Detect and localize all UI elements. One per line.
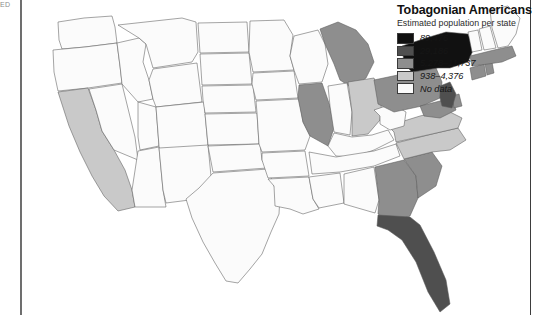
legend-swatch — [397, 71, 414, 82]
legend-item: 938–4,376 — [397, 70, 551, 83]
legend-swatch — [397, 58, 414, 69]
legend-subtitle: Estimated population per state — [397, 18, 551, 29]
legend-item: 5,278–11,737 — [397, 57, 551, 70]
legend-label: No data — [420, 84, 452, 94]
state-or — [53, 43, 122, 91]
legend-item: No data — [397, 82, 551, 95]
legend-label: 5,278–11,737 — [420, 58, 476, 68]
gutter-note: ED — [0, 1, 11, 8]
legend-item: 89,476 — [397, 32, 551, 45]
legend-swatch — [397, 33, 414, 44]
state-ar — [262, 151, 309, 178]
state-mn — [249, 20, 294, 72]
state-wy — [149, 63, 202, 107]
page-canvas: ED Tobagonian Americans Estimated popula… — [0, 0, 551, 315]
state-al — [344, 167, 379, 213]
state-mi — [320, 22, 374, 88]
legend-swatch — [397, 46, 414, 57]
legend-item: 29,186 — [397, 45, 551, 58]
legend-label: 89,476 — [420, 33, 448, 43]
state-ut — [138, 102, 159, 150]
legend-label: 938–4,376 — [420, 71, 463, 81]
legend-label: 29,186 — [420, 46, 448, 56]
state-nd — [198, 22, 249, 53]
legend-items: 89,47629,1865,278–11,737938–4,376No data — [397, 32, 551, 95]
state-co — [156, 102, 208, 151]
legend-title: Tobagonian Americans — [397, 3, 551, 17]
state-fl — [377, 215, 450, 312]
state-wi — [290, 30, 328, 84]
state-ks — [205, 113, 259, 145]
state-ok — [208, 144, 267, 172]
state-ne — [202, 85, 256, 113]
legend-swatch — [397, 83, 414, 94]
state-ia — [252, 71, 298, 100]
map-legend: Tobagonian Americans Estimated populatio… — [396, 0, 551, 95]
choropleth-map-figure: Tobagonian Americans Estimated populatio… — [22, 0, 530, 315]
state-sd — [200, 53, 252, 85]
